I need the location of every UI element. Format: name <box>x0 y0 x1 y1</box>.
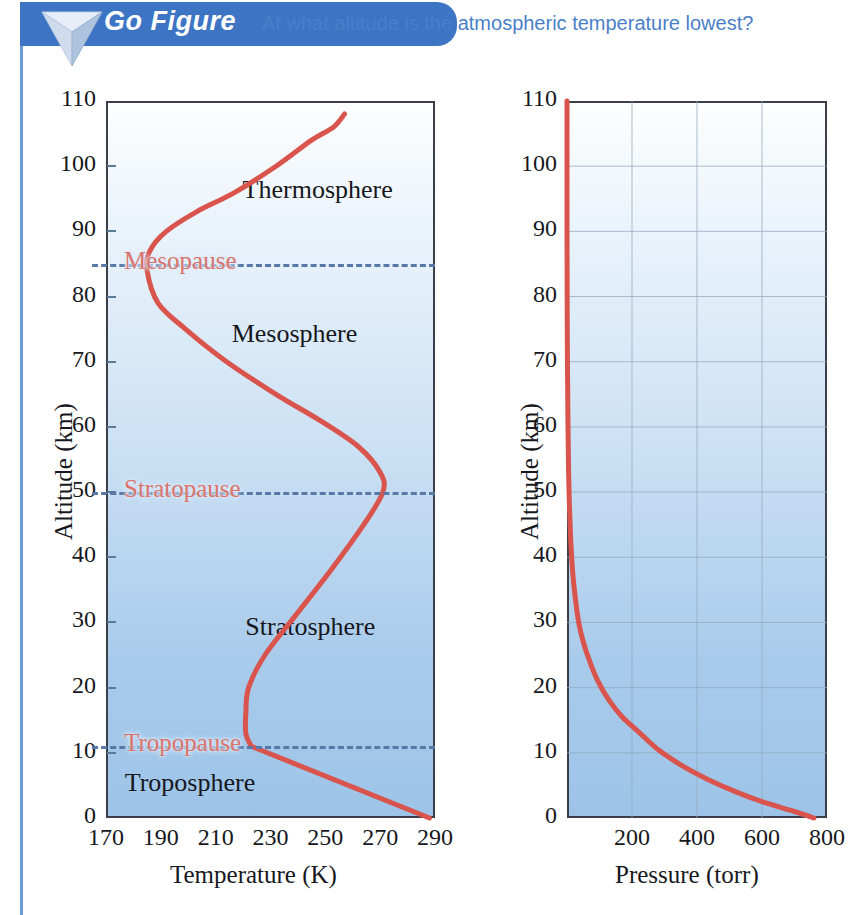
pressure-curve <box>0 0 852 915</box>
boundary-label: Mesopause <box>120 247 240 275</box>
pressure-y-axis-title: Altitude (km) <box>516 403 544 540</box>
pressure-curve-path <box>567 101 814 818</box>
boundary-label: Stratopause <box>120 475 245 503</box>
pressure-x-axis-title: Pressure (torr) <box>615 861 759 889</box>
boundary-label: Tropopause <box>120 729 245 757</box>
